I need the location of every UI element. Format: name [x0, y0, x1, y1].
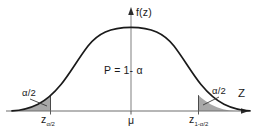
lower-critical-subscript: α/2 — [46, 121, 54, 127]
y-axis-arrowhead — [128, 7, 134, 15]
y-axis-label: f(z) — [136, 7, 152, 18]
central-probability-label: P = 1- α — [104, 65, 143, 76]
upper-critical-subscript: 1-α/2 — [194, 121, 208, 127]
right-tail-alpha-label: α/2 — [212, 86, 226, 96]
x-axis-label: Z — [238, 88, 245, 100]
normal-distribution-figure: f(z) P = 1- α α/2 α/2 Z μ zα/2 z1-α/2 — [0, 0, 263, 136]
left-tail-alpha-label: α/2 — [22, 88, 36, 98]
upper-critical-value-label: z1-α/2 — [189, 114, 208, 125]
lower-critical-value-label: zα/2 — [41, 114, 55, 125]
mean-tick-label: μ — [128, 115, 134, 126]
